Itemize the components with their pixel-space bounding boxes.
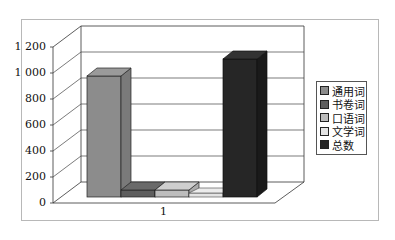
legend-swatch — [320, 127, 329, 136]
x-category-label: 1 — [160, 205, 167, 218]
y-tick-label: 400 — [12, 144, 46, 157]
y-tick-label: 1 000 — [12, 66, 46, 79]
legend-label: 总数 — [332, 137, 354, 153]
legend-swatch — [320, 140, 329, 149]
bar-series-4 — [223, 51, 267, 197]
y-tick-label: 0 — [12, 196, 46, 209]
bar-series-0 — [87, 68, 131, 197]
legend-swatch — [320, 113, 329, 122]
legend-item: 总数 — [320, 138, 366, 152]
y-tick-label: 800 — [12, 92, 46, 105]
y-tick-label: 200 — [12, 170, 46, 183]
y-tick-label: 600 — [12, 118, 46, 131]
legend-swatch — [320, 100, 329, 109]
chart-legend: 通用词 书卷词 口语词 文学词 总数 — [316, 81, 367, 155]
legend-swatch — [320, 86, 329, 95]
y-tick-label: 1 200 — [12, 40, 46, 53]
